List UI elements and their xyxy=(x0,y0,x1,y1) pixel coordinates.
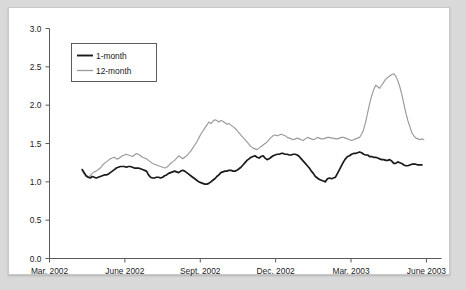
x-tick-label: Mar. 2002 xyxy=(31,266,69,276)
series-line-1-month xyxy=(82,152,422,184)
x-axis-tick-labels: Mar. 2002June 2002Sept. 2002Dec. 2002Mar… xyxy=(31,266,446,276)
series-line-12-month xyxy=(82,74,424,177)
plot-area: 0.00.51.01.52.02.53.0 Mar. 2002June 2002… xyxy=(9,8,451,276)
legend-label-12-month: 12-month xyxy=(96,66,132,76)
legend-box xyxy=(72,44,157,82)
data-series-layer xyxy=(82,74,424,184)
y-tick-label: 2.0 xyxy=(30,100,42,110)
x-tick-label: Sept. 2002 xyxy=(180,266,221,276)
y-tick-label: 0.0 xyxy=(30,254,42,264)
y-tick-label: 1.0 xyxy=(30,177,42,187)
y-tick-label: 0.5 xyxy=(30,215,42,225)
x-tick-label: June 2002 xyxy=(105,266,144,276)
figure-container: 0.00.51.01.52.02.53.0 Mar. 2002June 2002… xyxy=(0,0,466,290)
line-chart: 0.00.51.01.52.02.53.0 Mar. 2002June 2002… xyxy=(9,8,451,276)
x-axis-tick-marks xyxy=(50,259,427,263)
x-tick-label: Dec. 2002 xyxy=(257,266,296,276)
x-tick-label: Mar. 2003 xyxy=(332,266,370,276)
y-axis-tick-marks xyxy=(46,29,50,259)
y-tick-label: 2.5 xyxy=(30,62,42,72)
x-tick-label: June 2003 xyxy=(407,266,446,276)
chart-legend: 1-month 12-month xyxy=(72,44,157,82)
legend-label-1-month: 1-month xyxy=(96,51,127,61)
y-tick-label: 3.0 xyxy=(30,24,42,34)
y-tick-label: 1.5 xyxy=(30,139,42,149)
chart-card: 0.00.51.01.52.02.53.0 Mar. 2002June 2002… xyxy=(8,7,450,275)
y-axis-tick-labels: 0.00.51.01.52.02.53.0 xyxy=(30,24,42,264)
